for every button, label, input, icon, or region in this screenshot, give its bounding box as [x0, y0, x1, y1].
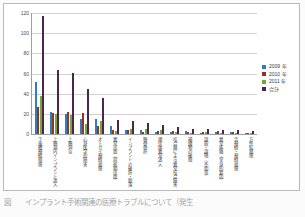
legend-swatch-icon [262, 87, 266, 91]
legend-item[interactable]: 2011 年 [262, 79, 305, 84]
y-axis-tick-label: 120 [21, 11, 29, 16]
x-axis-label: 心身医学的障害 [76, 137, 91, 195]
x-axis-label: 誤飲・誤嚥（不明等） [197, 137, 212, 195]
y-axis-tick-label: 100 [21, 31, 29, 36]
x-axis-label-text: 下歯槽神経損傷 [36, 137, 41, 195]
x-axis-label: 補綴物の破損 [182, 137, 197, 195]
x-axis-labels: 下歯槽神経損傷上顎洞内インプラント迷入上顎洞炎心身医学的障害オトガイ神経損傷異常… [31, 137, 257, 195]
bar-series-group [32, 13, 257, 134]
bar [252, 131, 254, 134]
x-axis-label-text: オトガイ神経損傷 [96, 137, 101, 195]
bar-group [242, 13, 257, 134]
x-axis-label: 咬合痛による異常咬合障害 [167, 137, 182, 195]
bar-group [107, 13, 122, 134]
x-axis-label: 上顎洞内インプラント迷入 [46, 137, 61, 195]
y-axis-tick-label: 40 [23, 91, 29, 96]
figure-caption: 図 インプラント手術関連の医療トラブルについて（発生 [4, 196, 301, 207]
bar [222, 130, 224, 134]
x-axis-label-text: 異常疼痛（全身的要因） [217, 137, 222, 195]
x-axis-label-text: インプラントの破折・脱落 [127, 137, 132, 195]
chart-legend: 2009 年2010 年2011 年合計 [262, 64, 305, 94]
bar-group [137, 13, 152, 134]
legend-swatch-icon [262, 72, 266, 76]
legend-swatch-icon [262, 65, 266, 69]
figure-container: 020406080100120 下歯槽神経損傷上顎洞内インプラント迷入上顎洞炎心… [0, 0, 305, 217]
bar [237, 130, 239, 134]
bar [207, 129, 209, 134]
bar [57, 70, 59, 134]
bar-group [32, 13, 47, 134]
y-axis-tick-label: 0 [26, 132, 29, 137]
x-axis-label: 顎骨骨折 [136, 137, 151, 195]
legend-label: 2011 年 [269, 79, 286, 84]
bar [72, 73, 74, 135]
bar [132, 121, 134, 134]
bar [102, 98, 104, 134]
x-axis-label: 異常疼痛（全身的要因） [212, 137, 227, 195]
x-axis-label-text: 心身医学的障害 [81, 137, 86, 195]
x-axis-label: 異常出血（周術期出血） [106, 137, 121, 195]
x-axis-label: 方件結損傷 [242, 137, 257, 195]
y-axis-tick-label: 80 [23, 51, 29, 56]
x-axis-label: 下歯槽神経損傷 [31, 137, 46, 195]
bar-group [182, 13, 197, 134]
legend-item[interactable]: 2009 年 [262, 64, 305, 69]
figure-frame: 020406080100120 下歯槽神経損傷上顎洞内インプラント迷入上顎洞炎心… [3, 3, 300, 191]
bar [117, 120, 119, 134]
x-axis-label: インプラントの破折・脱落 [121, 137, 136, 195]
bar-group [62, 13, 77, 134]
x-axis-label: 埋伏体異常迷入 [152, 137, 167, 195]
x-axis-label-text: 顎骨骨折 [142, 137, 147, 195]
legend-label: 2009 年 [269, 64, 287, 69]
bar [177, 127, 179, 134]
bar [147, 123, 149, 134]
x-axis-label-text: 上顎洞内インプラント迷入 [51, 137, 56, 195]
legend-label: 2010 年 [269, 72, 287, 77]
x-axis-label-text: 咬合痛による異常咬合障害 [172, 137, 177, 195]
bar [87, 89, 89, 134]
x-axis-label: 上顎洞炎 [61, 137, 76, 195]
legend-item[interactable]: 合計 [262, 87, 305, 92]
x-axis-label-text: 埋伏体異常迷入 [157, 137, 162, 195]
x-axis-label-text: 補綴物の破損 [187, 137, 192, 195]
bar [42, 16, 44, 134]
bar [162, 125, 164, 134]
x-axis-label: 舌神経・神経損傷 [227, 137, 242, 195]
y-axis-tick-label: 20 [23, 111, 29, 116]
x-axis-label-text: 舌神経・神経損傷 [232, 137, 237, 195]
legend-swatch-icon [262, 80, 266, 84]
x-axis-label-text: 誤飲・誤嚥（不明等） [202, 137, 207, 195]
legend-item[interactable]: 2010 年 [262, 72, 305, 77]
legend-label: 合計 [269, 87, 279, 92]
x-axis-label-text: 異常出血（周術期出血） [112, 137, 117, 195]
bar-group [47, 13, 62, 134]
bar-group [92, 13, 107, 134]
bar-group [152, 13, 167, 134]
bar-group [167, 13, 182, 134]
x-axis-label-text: 方件結損傷 [247, 137, 252, 195]
y-axis-tick-label: 60 [23, 71, 29, 76]
bar-group [212, 13, 227, 134]
chart-plot-area: 020406080100120 [31, 13, 257, 135]
bar-group [122, 13, 137, 134]
bar-group [227, 13, 242, 134]
bar [192, 129, 194, 134]
x-axis-label: オトガイ神経損傷 [91, 137, 106, 195]
x-axis-label-text: 上顎洞炎 [66, 137, 71, 195]
bar-group [77, 13, 92, 134]
bar-group [197, 13, 212, 134]
